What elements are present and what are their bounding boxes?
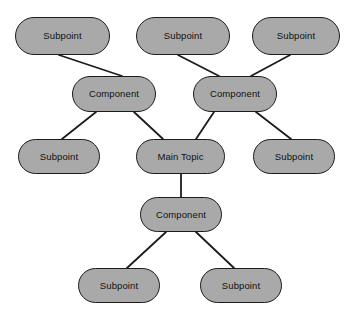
node-subpoint-bottom-left[interactable]: Subpoint <box>78 268 160 303</box>
node-subpoint-middle-right[interactable]: Subpoint <box>253 139 335 174</box>
node-subpoint-top-left[interactable]: Subpoint <box>15 17 110 55</box>
connector-component-right-to-subpoint-middle-right <box>256 112 291 139</box>
connector-subpoint-top-right-to-component-right <box>251 55 290 76</box>
connector-subpoint-top-middle-to-component-right <box>178 55 219 76</box>
node-subpoint-top-right[interactable]: Subpoint <box>252 17 340 55</box>
node-label-subpoint-bottom-left: Subpoint <box>100 281 138 291</box>
node-main-topic[interactable]: Main Topic <box>136 139 225 174</box>
node-label-subpoint-top-middle: Subpoint <box>164 31 202 41</box>
connector-subpoint-top-left-to-component-left <box>59 55 122 76</box>
connector-component-left-to-main-topic <box>134 112 163 139</box>
node-label-subpoint-middle-right: Subpoint <box>275 152 313 162</box>
node-component-left[interactable]: Component <box>72 76 156 112</box>
node-subpoint-middle-left[interactable]: Subpoint <box>18 139 100 174</box>
node-label-component-bottom: Component <box>156 210 206 220</box>
node-subpoint-bottom-right[interactable]: Subpoint <box>200 268 282 303</box>
node-label-subpoint-top-right: Subpoint <box>277 31 315 41</box>
node-label-main-topic: Main Topic <box>157 152 203 162</box>
concept-map-canvas: SubpointSubpointSubpointComponentCompone… <box>0 0 349 316</box>
connector-component-right-to-main-topic <box>196 112 214 139</box>
connector-component-bottom-to-subpoint-bottom-left <box>127 232 166 268</box>
node-label-component-left: Component <box>89 89 139 99</box>
node-label-subpoint-bottom-right: Subpoint <box>222 281 260 291</box>
node-label-subpoint-top-left: Subpoint <box>43 31 81 41</box>
node-component-bottom[interactable]: Component <box>140 197 222 232</box>
connector-component-left-to-subpoint-middle-left <box>62 112 96 139</box>
connector-component-bottom-to-subpoint-bottom-right <box>196 232 234 268</box>
node-subpoint-top-middle[interactable]: Subpoint <box>136 17 230 55</box>
node-label-subpoint-middle-left: Subpoint <box>40 152 78 162</box>
node-component-right[interactable]: Component <box>193 76 277 112</box>
node-label-component-right: Component <box>210 89 260 99</box>
